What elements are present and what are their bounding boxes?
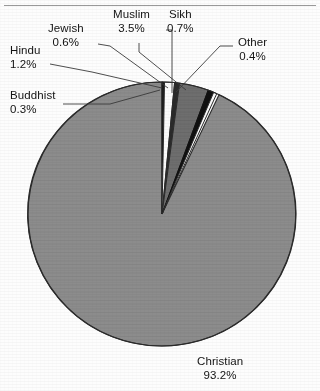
slice-label-other: Other 0.4% bbox=[238, 36, 267, 63]
slice-label-other-name: Other bbox=[238, 36, 267, 50]
slice-label-sikh: Sikh 0.7% bbox=[167, 8, 194, 35]
slice-label-buddhist-percent: 0.3% bbox=[10, 103, 56, 117]
slice-label-hindu-percent: 1.2% bbox=[10, 58, 41, 72]
slice-label-jewish: Jewish 0.6% bbox=[48, 22, 84, 49]
slice-label-hindu: Hindu 1.2% bbox=[10, 44, 41, 71]
slice-label-muslim-name: Muslim bbox=[113, 8, 150, 22]
slice-label-hindu-name: Hindu bbox=[10, 44, 41, 58]
slice-label-jewish-percent: 0.6% bbox=[48, 36, 84, 50]
pie-chart-graphic bbox=[0, 0, 320, 391]
leader-line-hindu bbox=[50, 64, 162, 88]
slice-label-sikh-percent: 0.7% bbox=[167, 22, 194, 36]
slice-label-sikh-name: Sikh bbox=[167, 8, 194, 22]
slice-label-christian-name: Christian bbox=[197, 355, 243, 369]
slice-label-muslim: Muslim 3.5% bbox=[113, 8, 150, 35]
slice-label-christian-percent: 93.2% bbox=[197, 369, 243, 383]
slice-label-other-percent: 0.4% bbox=[238, 50, 267, 64]
slice-label-muslim-percent: 3.5% bbox=[113, 22, 150, 36]
slice-label-buddhist-name: Buddhist bbox=[10, 89, 56, 103]
pie-chart-figure: Jewish 0.6% Muslim 3.5% Sikh 0.7% Other … bbox=[0, 0, 320, 391]
slice-label-buddhist: Buddhist 0.3% bbox=[10, 89, 56, 116]
slice-label-christian: Christian 93.2% bbox=[197, 355, 243, 382]
slice-label-jewish-name: Jewish bbox=[48, 22, 84, 36]
